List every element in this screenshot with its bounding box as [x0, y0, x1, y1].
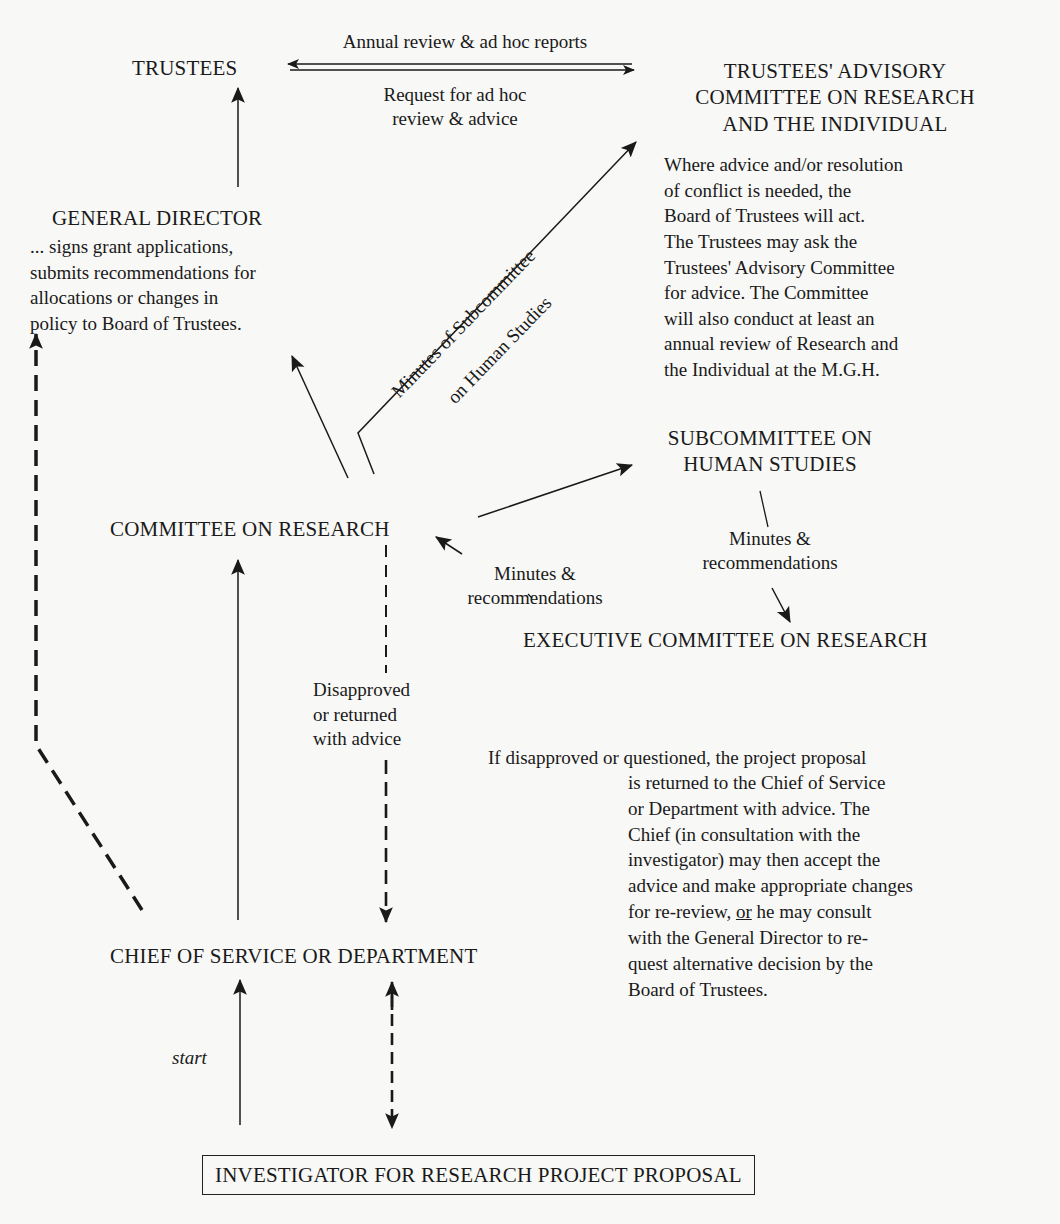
line-subcommittee-down	[760, 491, 768, 527]
label-minutes-recs-right: Minutes & recommendations	[680, 527, 860, 575]
node-general-director: GENERAL DIRECTOR	[52, 205, 262, 231]
arrow-subcommittee-to-executive	[772, 588, 790, 622]
label-request-line-1: Request for ad hoc	[350, 83, 560, 107]
label-disapproved-1: Disapproved	[313, 678, 410, 703]
subcommittee-line-2: HUMAN STUDIES	[655, 451, 885, 477]
disapproval-text-1: is returned to the Chief of Service or D…	[628, 772, 913, 922]
disapproval-or-emphasis: or	[736, 901, 752, 922]
arrow-committee-to-director	[292, 356, 348, 478]
node-trustees: TRUSTEES	[132, 55, 237, 81]
label-minutes-left-1: Minutes &	[455, 562, 615, 586]
advisory-title-line-2: COMMITTEE ON RESEARCH	[655, 84, 1015, 110]
advisory-title-line-1: TRUSTEES' ADVISORY	[655, 58, 1015, 84]
node-investigator: INVESTIGATOR FOR RESEARCH PROJECT PROPOS…	[202, 1155, 755, 1195]
advisory-title-line-3: AND THE INDIVIDUAL	[655, 111, 1015, 137]
node-subcommittee-human-studies: SUBCOMMITTEE ON HUMAN STUDIES	[655, 425, 885, 478]
label-start: start	[172, 1046, 207, 1070]
label-disapproved-3: with advice	[313, 727, 410, 752]
label-disapproved-2: or returned	[313, 703, 410, 728]
node-executive-committee: EXECUTIVE COMMITTEE ON RESEARCH	[523, 627, 928, 653]
general-director-description: ... signs grant applications, submits re…	[30, 234, 256, 337]
disapproval-first-line: If disapproved or questioned, the projec…	[488, 746, 866, 770]
node-advisory-committee: TRUSTEES' ADVISORY COMMITTEE ON RESEARCH…	[655, 58, 1015, 137]
arrow-executive-to-committee	[436, 537, 462, 554]
label-request-line-2: review & advice	[350, 107, 560, 131]
advisory-description: Where advice and/or resolution of confli…	[664, 152, 903, 383]
node-committee-on-research: COMMITTEE ON RESEARCH	[110, 516, 390, 542]
label-minutes-left-2: recommendations	[455, 586, 615, 610]
label-minutes-right-2: recommendations	[680, 551, 860, 575]
disapproval-description: is returned to the Chief of Service or D…	[628, 770, 913, 1002]
arrow-committee-to-subcommittee	[478, 465, 632, 517]
label-annual-review: Annual review & ad hoc reports	[280, 30, 650, 54]
dashed-chief-to-director	[36, 334, 142, 910]
research-review-flowchart: TRUSTEES TRUSTEES' ADVISORY COMMITTEE ON…	[0, 0, 1060, 1224]
label-minutes-right-1: Minutes &	[680, 527, 860, 551]
label-request-review: Request for ad hoc review & advice	[350, 83, 560, 131]
node-chief-of-service: CHIEF OF SERVICE OR DEPARTMENT	[110, 943, 478, 969]
label-minutes-recs-left: Minutes & recommendations	[455, 562, 615, 610]
label-disapproved: Disapproved or returned with advice	[313, 678, 410, 752]
arrow-minutes-subcommittee	[358, 142, 636, 474]
subcommittee-line-1: SUBCOMMITTEE ON	[655, 425, 885, 451]
